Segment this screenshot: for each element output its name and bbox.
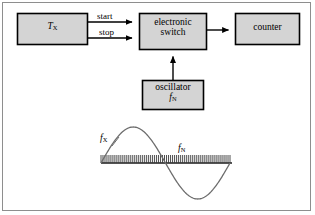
figure-container: TX electronic switch counter oscillator … bbox=[0, 0, 315, 215]
stop-edge-label: stop bbox=[99, 27, 114, 37]
fx-waveform-label: fX bbox=[100, 133, 107, 143]
start-edge-label: start bbox=[97, 11, 113, 21]
switch-label-line2: switch bbox=[139, 28, 207, 38]
oscillator-label-line2: fN bbox=[142, 93, 204, 103]
tx-block-label: TX bbox=[17, 22, 88, 32]
counter-block-label: counter bbox=[235, 23, 300, 33]
oscillator-freq-sub: N bbox=[172, 95, 177, 102]
electronic-switch-block-label: electronic switch bbox=[139, 18, 207, 38]
fn-label-sub: N bbox=[181, 146, 186, 153]
fx-leader-line bbox=[112, 137, 119, 146]
tx-label-sub: X bbox=[53, 24, 58, 31]
oscillator-label-line1: oscillator bbox=[142, 83, 204, 93]
fx-label-sub: X bbox=[103, 136, 108, 143]
fn-waveform-label: fN bbox=[178, 143, 185, 153]
counter-label-text: counter bbox=[253, 22, 282, 32]
oscillator-block-label: oscillator fN bbox=[142, 83, 204, 103]
